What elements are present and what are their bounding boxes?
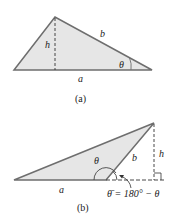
caption-a: (a) (75, 93, 86, 105)
triangle-a (14, 17, 152, 70)
label-h-a: h (45, 39, 50, 50)
label-theta-bar-eq-b: θ̄ = 180° − θ (107, 188, 159, 199)
figure-a: h b θ a (a) (14, 17, 152, 105)
pointer-arrow-b (121, 176, 131, 188)
label-a-b: a (59, 184, 64, 195)
label-h-b: h (159, 148, 164, 159)
label-theta-b: θ (94, 155, 99, 166)
label-theta-a: θ (119, 59, 124, 70)
caption-b: (b) (77, 202, 89, 214)
label-b-a: b (100, 28, 105, 39)
figure-b: θ b h a θ̄ = 180° − θ (b) (14, 123, 165, 214)
right-angle-mark-b (154, 173, 161, 180)
label-a-a: a (78, 73, 83, 84)
label-b-b: b (132, 152, 137, 163)
angle-arc-theta-bar-b (113, 172, 117, 181)
triangle-diagram: h b θ a (a) θ b h a θ̄ = 180° − θ (b) (0, 0, 175, 216)
